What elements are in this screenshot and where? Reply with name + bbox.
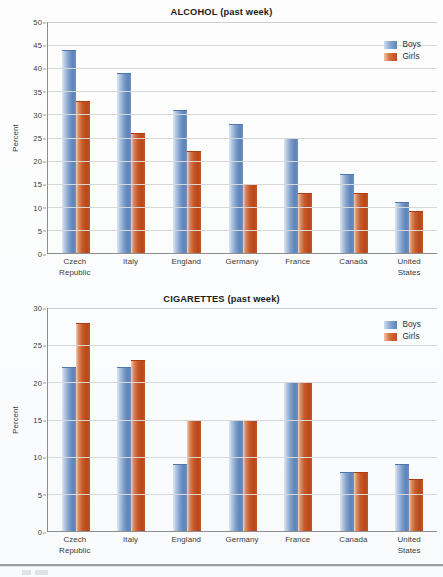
gridline xyxy=(48,114,437,115)
legend-alcohol: Boys Girls xyxy=(384,40,421,61)
x-tick-label: France xyxy=(270,254,326,278)
y-tick-label: 5 xyxy=(38,226,42,235)
legend-label-boys: Boys xyxy=(402,40,421,49)
y-tick-label: 5 xyxy=(38,490,42,499)
x-tick-line: Czech xyxy=(47,257,103,268)
bar-boys xyxy=(395,202,409,253)
x-tick-line: Republic xyxy=(47,268,103,279)
x-tick-label: UnitedStates xyxy=(381,532,437,556)
x-tick-line: Italy xyxy=(103,257,159,268)
x-tick-line: England xyxy=(158,257,214,268)
x-axis-labels-alcohol: CzechRepublicItalyEnglandGermanyFranceCa… xyxy=(47,254,437,278)
chart-title-alcohol: ALCOHOL (past week) xyxy=(0,0,443,17)
bar-girls xyxy=(76,323,90,531)
legend-swatch-girls-icon xyxy=(384,333,397,341)
y-axis-ticks-cigarettes: 302520151050 xyxy=(16,308,46,532)
bar-girls xyxy=(243,420,257,532)
gridline xyxy=(48,45,437,46)
y-tick-label: 10 xyxy=(33,453,42,462)
x-tick-line: Czech xyxy=(47,535,103,546)
x-tick-line: United xyxy=(381,257,437,268)
gridline xyxy=(48,22,437,23)
plot-canvas-alcohol xyxy=(47,22,437,254)
y-tick-label: 10 xyxy=(33,203,42,212)
x-tick-line: Germany xyxy=(214,535,270,546)
bar-boys xyxy=(395,464,409,531)
bar-girls xyxy=(187,151,201,253)
figure-page: ALCOHOL (past week) Percent 504540353025… xyxy=(0,0,443,577)
x-tick-line: France xyxy=(270,535,326,546)
gridline xyxy=(48,494,437,495)
footer-cropped-glyph-icon xyxy=(22,570,48,575)
y-tick-label: 15 xyxy=(33,416,42,425)
legend-item-girls: Girls xyxy=(384,332,421,341)
x-tick-label: Italy xyxy=(103,254,159,278)
x-tick-line: United xyxy=(381,535,437,546)
y-tick-label: 15 xyxy=(33,180,42,189)
legend-label-boys: Boys xyxy=(402,320,421,329)
y-tick-label: 20 xyxy=(33,378,42,387)
bar-boys xyxy=(117,73,131,253)
x-tick-line: States xyxy=(381,546,437,557)
y-tick-label: 25 xyxy=(33,134,42,143)
x-tick-label: Italy xyxy=(103,532,159,556)
bar-girls xyxy=(187,420,201,532)
bar-boys xyxy=(173,110,187,253)
x-tick-label: Canada xyxy=(326,254,382,278)
x-tick-label: Germany xyxy=(214,254,270,278)
legend-swatch-boys-icon xyxy=(384,321,397,329)
gridline xyxy=(48,382,437,383)
bar-girls xyxy=(354,193,368,253)
gridline xyxy=(48,68,437,69)
x-tick-line: Germany xyxy=(214,257,270,268)
bar-boys xyxy=(229,124,243,253)
bar-boys xyxy=(284,138,298,254)
plot-canvas-cigarettes xyxy=(47,308,437,532)
gridline xyxy=(48,138,437,139)
gridline xyxy=(48,345,437,346)
x-tick-line: Italy xyxy=(103,535,159,546)
legend-cigarettes: Boys Girls xyxy=(384,320,421,341)
bar-girls xyxy=(131,133,145,253)
x-tick-label: CzechRepublic xyxy=(47,254,103,278)
x-tick-label: UnitedStates xyxy=(381,254,437,278)
x-tick-line: States xyxy=(381,268,437,279)
y-tick-label: 50 xyxy=(33,18,42,27)
bar-boys xyxy=(117,367,131,531)
y-tick-label: 20 xyxy=(33,157,42,166)
bar-girls xyxy=(409,211,423,253)
bar-boys xyxy=(173,464,187,531)
x-tick-label: Germany xyxy=(214,532,270,556)
plot-area-cigarettes: Percent 302520151050 CzechRepublicItalyE… xyxy=(0,308,443,532)
bar-boys xyxy=(62,50,76,253)
x-tick-line: Canada xyxy=(326,257,382,268)
legend-item-boys: Boys xyxy=(384,40,421,49)
y-tick-label: 0 xyxy=(38,250,42,259)
bar-boys xyxy=(62,367,76,531)
x-tick-label: England xyxy=(158,532,214,556)
bar-girls xyxy=(354,472,368,531)
bar-girls xyxy=(298,193,312,253)
bar-girls xyxy=(243,184,257,253)
y-axis-ticks-alcohol: 50454035302520151050 xyxy=(16,22,46,254)
gridline xyxy=(48,420,437,421)
x-tick-label: Canada xyxy=(326,532,382,556)
gridline xyxy=(48,184,437,185)
bar-girls xyxy=(409,479,423,531)
bar-boys xyxy=(340,174,354,253)
legend-swatch-boys-icon xyxy=(384,41,397,49)
gridline xyxy=(48,308,437,309)
x-tick-line: England xyxy=(158,535,214,546)
chart-title-cigarettes: CIGARETTES (past week) xyxy=(0,288,443,304)
x-axis-labels-cigarettes: CzechRepublicItalyEnglandGermanyFranceCa… xyxy=(47,532,437,556)
gridline xyxy=(48,457,437,458)
y-tick-label: 30 xyxy=(33,304,42,313)
footer-divider xyxy=(0,564,443,566)
x-tick-line: France xyxy=(270,257,326,268)
x-tick-label: England xyxy=(158,254,214,278)
bar-boys xyxy=(229,420,243,532)
legend-swatch-girls-icon xyxy=(384,53,397,61)
bar-boys xyxy=(340,472,354,531)
legend-label-girls: Girls xyxy=(402,52,419,61)
chart-panel-cigarettes: CIGARETTES (past week) Percent 302520151… xyxy=(0,288,443,560)
